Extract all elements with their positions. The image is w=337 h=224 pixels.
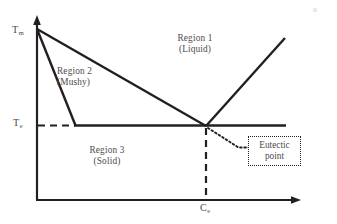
ce-subscript: e — [207, 207, 210, 214]
eutectic-temperature-label: Te — [13, 118, 22, 129]
corner-artifact-speck — [313, 8, 317, 12]
phase-diagram-figure: Region 1(Liquid) Region 2(Mushy) Region … — [0, 0, 337, 224]
eutectic-composition-label: Ce — [200, 203, 210, 214]
ce-symbol: C — [200, 202, 207, 213]
region-1-label: Region 1(Liquid) — [150, 33, 240, 56]
region-1-phase: (Liquid) — [179, 44, 211, 54]
te-symbol: T — [13, 117, 19, 128]
region-2-phase: (Mushy) — [57, 77, 90, 87]
tm-subscript: m — [19, 29, 24, 36]
te-subscript: e — [20, 122, 23, 129]
region-2-label: Region 2(Mushy) — [57, 66, 133, 89]
region-2-name: Region 2 — [57, 66, 92, 76]
melting-temperature-label: Tm — [12, 25, 23, 36]
tm-symbol: T — [12, 24, 18, 35]
composition-axis-arrow-icon — [291, 196, 301, 204]
eutectic-point-callout: Eutecticpoint — [248, 136, 301, 166]
eutectic-callout-line-2: point — [265, 151, 284, 162]
region-3-phase: (Solid) — [94, 156, 121, 166]
region-1-name: Region 1 — [177, 33, 212, 43]
eutectic-callout-line-1: Eutectic — [259, 140, 289, 151]
region-3-label: Region 3(Solid) — [62, 145, 152, 168]
region-3-name: Region 3 — [89, 145, 124, 155]
temperature-axis-arrow-icon — [33, 15, 41, 25]
